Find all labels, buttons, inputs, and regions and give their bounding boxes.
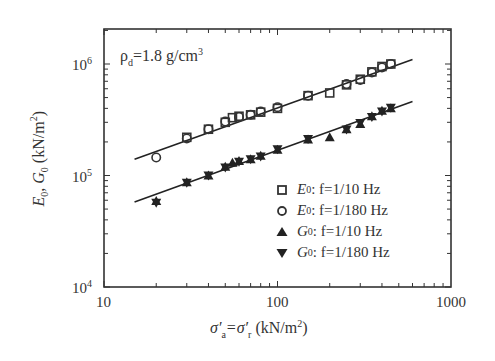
x-axis-label: σ′a=σ′r (kN/m2) xyxy=(210,318,307,340)
y-tick-1e6: 106 xyxy=(72,55,92,74)
density-annotation: ρd=1.8 g/cm3 xyxy=(120,46,203,68)
y-tick-1e5: 105 xyxy=(72,167,92,186)
legend-item-g0-180hz: G0 : f=1/180 Hz xyxy=(275,242,390,263)
x-tick-100: 100 xyxy=(266,294,289,311)
triangle-down-filled-icon xyxy=(275,246,289,260)
circle-open-icon xyxy=(275,204,289,218)
legend: E0 : f=1/10 Hz E0 : f=1/180 Hz G0 : f=1/… xyxy=(275,179,390,263)
legend-item-e0-10hz: E0 : f=1/10 Hz xyxy=(275,179,390,200)
density-exponent: 3 xyxy=(198,46,203,57)
legend-item-g0-10hz: G0 : f=1/10 Hz xyxy=(275,221,390,242)
rho-symbol: ρ xyxy=(120,47,128,64)
x-tick-1000: 1000 xyxy=(436,294,466,311)
square-open-icon xyxy=(275,183,289,197)
legend-item-e0-180hz: E0 : f=1/180 Hz xyxy=(275,200,390,221)
y-tick-1e4: 104 xyxy=(72,278,92,297)
x-tick-10: 10 xyxy=(96,294,111,311)
triangle-up-filled-icon xyxy=(275,225,289,239)
y-axis-label: E0, G0 (kN/m2) xyxy=(28,84,50,234)
density-value: =1.8 g/cm xyxy=(133,47,198,64)
